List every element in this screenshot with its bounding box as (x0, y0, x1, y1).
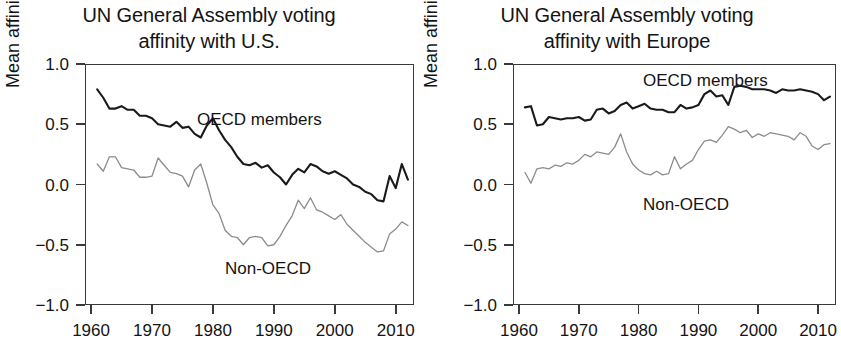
panel-title-europe-line1: UN General Assembly voting (418, 2, 836, 28)
panel-title-us-line1: UN General Assembly voting (0, 2, 418, 28)
y-axis-label-europe: Mean affinity index score (420, 0, 442, 88)
chart-panel-europe: UN General Assembly voting affinity with… (418, 0, 836, 362)
plot-area-europe: OECD members Non-OECD (513, 64, 836, 305)
chart-panel-us: UN General Assembly voting affinity with… (0, 0, 418, 362)
panel-title-us-line2: affinity with U.S. (0, 28, 418, 54)
series-label-non-oecd-europe: Non-OECD (643, 196, 729, 213)
series-label-oecd-europe: OECD members (643, 72, 768, 89)
panel-title-us: UN General Assembly voting affinity with… (0, 2, 418, 54)
series-label-non-oecd-us: Non-OECD (225, 260, 311, 277)
series-line-non-oecd (97, 157, 408, 252)
series-line-oecd (97, 89, 408, 201)
series-label-oecd-us: OECD members (197, 111, 322, 128)
plot-lines-europe (513, 64, 836, 305)
y-axis-label-us: Mean affinity index score (2, 0, 24, 88)
panel-title-europe: UN General Assembly voting affinity with… (418, 2, 836, 54)
panel-title-europe-line2: affinity with Europe (418, 28, 836, 54)
plot-area-us: OECD members Non-OECD (85, 64, 414, 305)
series-line-non-oecd (525, 127, 830, 184)
series-line-oecd (525, 86, 830, 126)
